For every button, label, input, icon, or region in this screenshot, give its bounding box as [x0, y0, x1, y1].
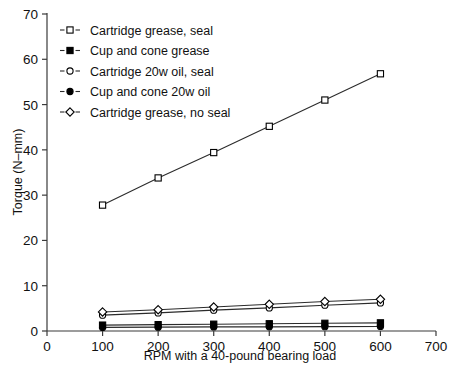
x-tick-label: 100 [91, 339, 114, 354]
x-tick-label: 700 [425, 339, 448, 354]
marker-open-square [266, 123, 272, 129]
marker-open-square [211, 149, 217, 155]
x-tick-label: 0 [43, 339, 51, 354]
marker-open-circle [67, 68, 73, 74]
y-tick-label: 10 [23, 279, 38, 294]
marker-open-square [377, 71, 383, 77]
marker-open-square [67, 27, 73, 33]
y-tick-label: 20 [23, 233, 38, 248]
marker-filled-circle [266, 324, 272, 330]
marker-open-square [322, 97, 328, 103]
marker-filled-square [67, 47, 73, 53]
y-tick-label: 0 [30, 324, 38, 339]
x-tick-label: 600 [369, 339, 392, 354]
legend-label-2: Cup and cone grease [90, 44, 210, 58]
marker-open-square [99, 202, 105, 208]
chart-canvas: 010203040506070 0100200300400500600700 T… [0, 0, 453, 370]
y-tick-label: 50 [23, 98, 38, 113]
marker-filled-circle [99, 324, 105, 330]
marker-filled-circle [155, 324, 161, 330]
x-axis-title: RPM with a 40-pound bearing load [144, 349, 337, 363]
marker-filled-circle [211, 324, 217, 330]
marker-filled-circle [322, 324, 328, 330]
torque-vs-rpm-chart: 010203040506070 0100200300400500600700 T… [0, 0, 453, 370]
marker-filled-circle [67, 88, 73, 94]
y-tick-label: 70 [23, 7, 38, 22]
chart-background [0, 0, 453, 370]
marker-filled-circle [377, 323, 383, 329]
y-tick-label: 60 [23, 52, 38, 67]
legend-label-1: Cartridge grease, seal [90, 24, 213, 38]
y-axis-title: Torque (N–mm) [11, 129, 25, 216]
y-tick-label: 40 [23, 143, 38, 158]
legend-label-5: Cartridge grease, no seal [90, 106, 230, 120]
y-tick-label: 30 [23, 188, 38, 203]
marker-open-square [155, 175, 161, 181]
legend-label-3: Cartridge 20w oil, seal [90, 65, 214, 79]
legend-label-4: Cup and cone 20w oil [90, 85, 210, 99]
